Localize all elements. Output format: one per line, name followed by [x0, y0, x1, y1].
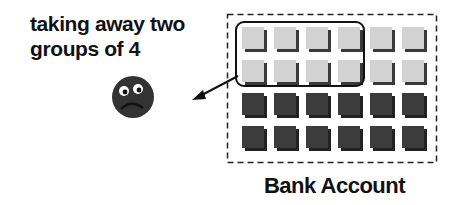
tile-face: [242, 60, 264, 82]
arrow-icon: [192, 76, 238, 100]
positive-tile: [242, 27, 267, 52]
positive-tile: [402, 60, 427, 85]
negative-tile: [402, 93, 427, 118]
positive-tile: [402, 27, 427, 52]
tile-face: [402, 60, 424, 82]
tile-face: [338, 126, 360, 148]
tile-face: [338, 93, 360, 115]
tile-face: [274, 93, 296, 115]
tile-face: [338, 27, 360, 49]
tile-face: [274, 126, 296, 148]
positive-tile: [242, 60, 267, 85]
tile-face: [242, 93, 264, 115]
tile-face: [274, 60, 296, 82]
negative-tile: [370, 126, 395, 151]
negative-tile: [242, 93, 267, 118]
negative-tile: [338, 93, 363, 118]
tile-face: [306, 27, 328, 49]
positive-tile: [370, 27, 395, 52]
tile-face: [306, 60, 328, 82]
positive-tile: [338, 60, 363, 85]
tile-face: [370, 126, 392, 148]
tile-face: [338, 60, 360, 82]
negative-tile: [274, 126, 299, 151]
negative-tile: [402, 126, 427, 151]
positive-tile: [338, 27, 363, 52]
sad-face-icon: [112, 76, 154, 118]
caption-line-2: groups of 4: [30, 36, 185, 61]
positive-tile: [274, 27, 299, 52]
negative-tile: [242, 126, 267, 151]
tile-face: [370, 93, 392, 115]
tile-face: [306, 126, 328, 148]
negative-tile: [370, 93, 395, 118]
caption-line-1: taking away two: [30, 11, 185, 36]
negative-tile: [306, 93, 331, 118]
caption: taking away two groups of 4: [30, 11, 185, 61]
negative-tile: [306, 126, 331, 151]
tile-grid: [242, 27, 427, 151]
negative-tile: [274, 93, 299, 118]
bank-account-label: Bank Account: [262, 173, 407, 199]
tile-face: [242, 126, 264, 148]
negative-tile: [338, 126, 363, 151]
tile-face: [274, 27, 296, 49]
positive-tile: [274, 60, 299, 85]
positive-tile: [306, 60, 331, 85]
tile-face: [402, 126, 424, 148]
tile-face: [370, 60, 392, 82]
tile-face: [370, 27, 392, 49]
tile-face: [306, 93, 328, 115]
positive-tile: [306, 27, 331, 52]
tile-face: [402, 27, 424, 49]
tile-face: [402, 93, 424, 115]
tile-face: [242, 27, 264, 49]
positive-tile: [370, 60, 395, 85]
